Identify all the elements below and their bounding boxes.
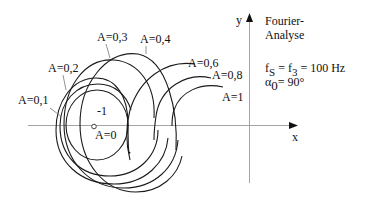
leader-a-0-2 (63, 75, 66, 90)
label-a-0-8: A=0,8 (212, 68, 242, 82)
x-axis-arrow-icon (289, 122, 298, 129)
label-a-0-3: A=0,3 (97, 30, 127, 44)
curve-a-1 (172, 86, 223, 126)
phase-parameter: α0= 90° (265, 75, 305, 93)
y-axis-arrow-icon (246, 13, 253, 22)
curve-a-0 (66, 90, 128, 160)
leader-a-0-1 (50, 108, 62, 117)
critical-point-label: -1 (97, 104, 107, 118)
locus-curves (56, 54, 223, 192)
label-a-1: A=1 (222, 90, 243, 104)
label-a-0: A=0 (95, 128, 116, 142)
curve-a-0-6 (127, 63, 195, 160)
title-line-1: Fourier- (265, 14, 304, 28)
x-axis-label: x (292, 130, 298, 144)
title-line-2: Analyse (265, 28, 304, 42)
label-a-0-1: A=0,1 (18, 93, 48, 107)
locus-diagram: x y -1 A=0 A=0,1 A=0,2 A=0,3 A=0,4 (0, 0, 366, 203)
curve-a-0-4 (80, 54, 182, 192)
y-axis-label: y (236, 13, 242, 27)
annotation-block: Fourier- Analyse fS = f3 = 100 Hz α0= 90… (265, 14, 345, 93)
label-a-0-2: A=0,2 (48, 61, 78, 75)
leader-a-0-3 (106, 44, 110, 58)
label-a-0-4: A=0,4 (140, 32, 170, 46)
